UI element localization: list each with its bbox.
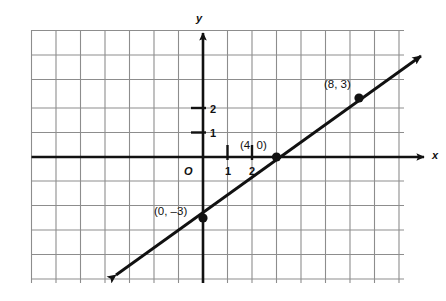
data-point-8-3 — [354, 93, 363, 102]
plotted-line — [116, 56, 421, 275]
grid-horizontal-lines — [32, 31, 405, 280]
data-point-4-0 — [272, 152, 281, 161]
data-point-0-neg3 — [198, 213, 207, 222]
x-tick-label-2: 2 — [249, 166, 255, 177]
point-label-0-neg3: (0, –3) — [154, 206, 187, 218]
x-axis-label: x — [432, 150, 438, 161]
coordinate-plane-svg — [0, 0, 446, 301]
y-tick-label-2: 2 — [210, 104, 216, 115]
point-label-8-3: (8, 3) — [324, 79, 351, 91]
graph-figure: y x O 1 2 1 2 (8, 3) (4, 0) (0, –3) — [0, 0, 446, 301]
y-tick-label-1: 1 — [210, 128, 216, 139]
x-tick-label-1: 1 — [225, 166, 231, 177]
point-label-4-0: (4, 0) — [240, 140, 267, 152]
y-axis-label: y — [196, 13, 202, 24]
origin-label: O — [184, 166, 193, 177]
